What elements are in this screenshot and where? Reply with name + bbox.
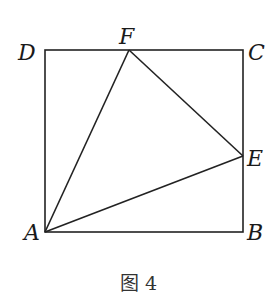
label-d: D — [17, 40, 36, 65]
label-c: C — [248, 40, 265, 65]
segment-fe — [129, 50, 243, 156]
square-abcd — [45, 50, 243, 232]
label-e: E — [246, 146, 263, 171]
geometry-figure: D F C E A B 图 4 — [0, 0, 280, 308]
label-f: F — [118, 24, 135, 49]
label-a: A — [22, 220, 40, 245]
label-b: B — [246, 220, 263, 245]
figure-caption: 图 4 — [120, 272, 157, 294]
